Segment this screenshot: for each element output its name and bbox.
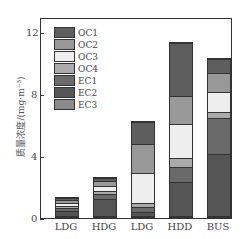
y-axis-label: 质量浓度/(mg·m⁻³) bbox=[14, 57, 27, 177]
segment-ec2 bbox=[208, 154, 230, 216]
segment-ec1 bbox=[208, 118, 230, 154]
legend-item-ec2: EC2 bbox=[54, 87, 97, 98]
segment-oc3 bbox=[208, 92, 230, 111]
bar-ldg bbox=[55, 197, 79, 218]
bar-ldg bbox=[131, 121, 155, 218]
segment-ec3 bbox=[94, 216, 116, 217]
bar-hdd bbox=[169, 42, 193, 218]
segment-ec1 bbox=[170, 167, 192, 182]
bar-bus bbox=[207, 58, 231, 218]
legend-item-oc3: OC3 bbox=[54, 51, 98, 62]
x-tick-label: HDG bbox=[84, 221, 124, 232]
segment-oc4 bbox=[170, 158, 192, 167]
legend-item-oc2: OC2 bbox=[54, 39, 98, 50]
segment-oc1 bbox=[208, 59, 230, 73]
segment-oc3 bbox=[170, 124, 192, 158]
segment-oc1 bbox=[132, 122, 154, 144]
x-tick-label: LDG bbox=[46, 221, 86, 232]
segment-oc3 bbox=[132, 173, 154, 202]
legend-item-ec3: EC3 bbox=[54, 99, 97, 110]
y-tick-label: 4 bbox=[31, 151, 37, 162]
y-tick-label: 8 bbox=[31, 89, 37, 100]
segment-oc2 bbox=[132, 144, 154, 173]
stacked-bar-chart: 质量浓度/(mg·m⁻³) LDGHDGLDGHDDBUS04812OC1OC2… bbox=[0, 0, 245, 239]
segment-oc2 bbox=[170, 96, 192, 124]
segment-ec2 bbox=[170, 182, 192, 216]
segment-oc1 bbox=[170, 43, 192, 96]
x-tick-label: BUS bbox=[198, 221, 238, 232]
y-tick-label: 12 bbox=[26, 27, 39, 38]
bar-hdg bbox=[93, 177, 117, 218]
segment-ec3 bbox=[208, 216, 230, 217]
legend-item-ec1: EC1 bbox=[54, 75, 97, 86]
segment-ec3 bbox=[56, 216, 78, 217]
segment-oc2 bbox=[208, 73, 230, 92]
x-tick-label: LDG bbox=[122, 221, 162, 232]
x-tick-label: HDD bbox=[160, 221, 200, 232]
y-tick-label: 0 bbox=[31, 213, 37, 224]
legend-item-oc1: OC1 bbox=[54, 27, 98, 38]
segment-ec2 bbox=[94, 199, 116, 216]
segment-ec3 bbox=[170, 216, 192, 217]
legend-item-oc4: OC4 bbox=[54, 63, 98, 74]
segment-ec3 bbox=[132, 216, 154, 217]
